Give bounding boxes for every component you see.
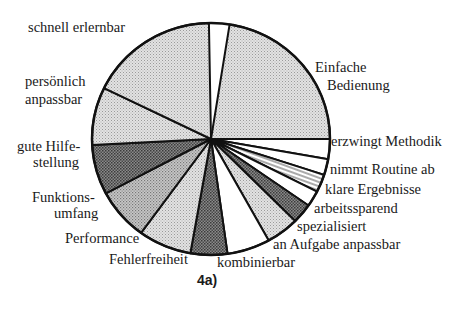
label-hilfe-line2: stellung (33, 154, 79, 170)
label-einfache-line2: Bedienung (327, 77, 390, 93)
label-funktion-line1: Funktions- (32, 189, 95, 205)
label-einfache-line1: Einfache (315, 59, 367, 75)
label-performance: Performance (65, 230, 139, 246)
label-nimmt-routine-ab: nimmt Routine ab (330, 161, 435, 177)
label-persoenlich-line2: anpassbar (25, 91, 82, 107)
label-erzwingt-methodik: erzwingt Methodik (331, 133, 442, 149)
label-an-aufgabe-anpassbar: an Aufgabe anpassbar (273, 236, 400, 252)
label-spezialisiert: spezialisiert (297, 218, 366, 234)
figure-caption: 4a) (197, 272, 217, 288)
label-persoenlich-line1: persönlich (25, 73, 86, 89)
label-fehlerfreiheit: Fehlerfreiheit (109, 251, 188, 267)
pie-chart: schnell erlernbar persönlich anpassbar g… (0, 0, 472, 312)
label-klare-ergebnisse: klare Ergebnisse (325, 181, 421, 197)
label-schnell-erlernbar: schnell erlernbar (28, 19, 125, 35)
label-funktion-line2: umfang (54, 205, 98, 221)
label-kombinierbar: kombinierbar (217, 254, 295, 270)
label-arbeitssparend: arbeitssparend (314, 200, 398, 216)
pie-slice-einfache-bedienung (211, 24, 330, 139)
label-hilfe-line1: gute Hilfe- (17, 138, 80, 154)
